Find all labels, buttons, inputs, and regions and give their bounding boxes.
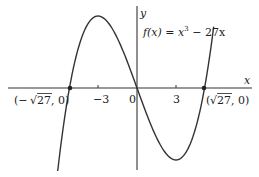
function-rhs: − 27x <box>189 26 226 39</box>
function-label: f(x) = x3 − 27x <box>142 25 226 39</box>
y-axis-label: y <box>139 7 147 20</box>
annotation-neg-root: (− √ 27 , 0) <box>14 94 69 108</box>
annotation-neg-close: , 0) <box>51 94 69 107</box>
tick-label-3: 3 <box>173 93 180 106</box>
tick-label-neg3: −3 <box>93 93 109 106</box>
root-point-negative <box>68 86 73 91</box>
annotation-pos-radicand: 27 <box>217 94 231 107</box>
annotation-neg-radicand: 27 <box>37 94 51 107</box>
function-graph: y x f(x) = x3 − 27x −3 0 3 (− √ 27 , 0) … <box>0 0 259 177</box>
annotation-neg-open: (− <box>14 94 28 107</box>
tick-label-0: 0 <box>129 93 136 106</box>
annotation-pos-close: , 0) <box>231 94 249 107</box>
annotation-pos-root: ( √ 27 , 0) <box>206 94 249 108</box>
function-lhs: f(x) = x <box>142 26 185 39</box>
x-axis-label: x <box>244 74 251 87</box>
root-point-positive <box>202 86 207 91</box>
plot-area: y x f(x) = x3 − 27x −3 0 3 (− √ 27 , 0) … <box>0 0 259 177</box>
